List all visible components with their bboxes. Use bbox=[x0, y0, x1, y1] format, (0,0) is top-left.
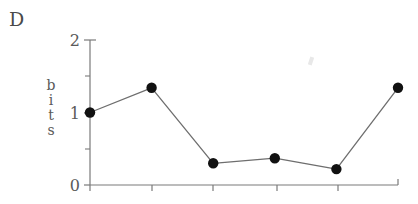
data-point bbox=[146, 83, 156, 93]
plot-area bbox=[0, 0, 418, 204]
data-point bbox=[208, 158, 218, 168]
data-line bbox=[90, 88, 398, 169]
data-point bbox=[85, 107, 95, 117]
data-point bbox=[270, 153, 280, 163]
data-point bbox=[331, 164, 341, 174]
figure-panel-d: D b i t s 0 1 2 bbox=[0, 0, 418, 204]
data-point bbox=[393, 83, 403, 93]
x-axis-ticks bbox=[90, 185, 338, 191]
axis-lines bbox=[90, 40, 398, 185]
